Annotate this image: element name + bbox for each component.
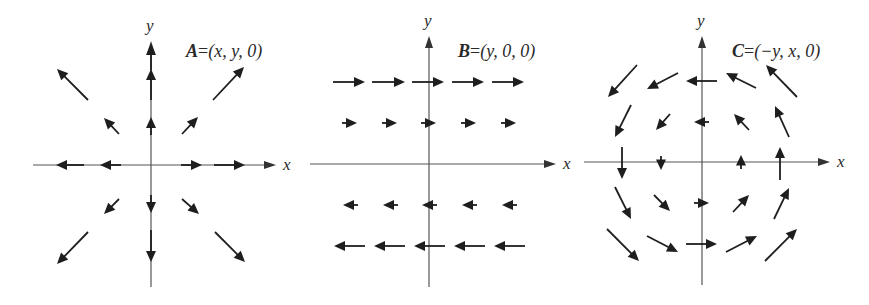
vector-arrow <box>607 229 639 261</box>
vector-arrow <box>412 77 444 87</box>
vector-arrow <box>617 147 627 179</box>
vector-arrow <box>775 106 789 137</box>
arrowhead-icon <box>354 77 365 87</box>
vector-arrow <box>213 67 244 100</box>
arrowhead-icon <box>422 200 433 210</box>
vector-arrow <box>766 65 797 97</box>
vector-arrow <box>104 118 119 134</box>
vector-arrow <box>454 241 485 251</box>
arrowhead-icon <box>146 44 156 55</box>
vector-arrow <box>765 229 797 261</box>
vector-arrow <box>647 73 678 89</box>
arrowhead-icon <box>462 200 473 210</box>
arrowhead-icon <box>146 251 156 262</box>
x-axis-arrow-icon <box>544 160 556 168</box>
arrowhead-icon <box>146 117 156 128</box>
panel-c: xyC=(−y, x, 0) <box>584 11 845 285</box>
vector-arrow <box>146 230 156 262</box>
arrowhead-icon <box>414 241 425 251</box>
arrowhead-icon <box>146 69 156 80</box>
vector-arrow <box>656 114 670 130</box>
panel-a: xyA=(x, y, 0) <box>33 16 291 287</box>
vector-arrow <box>57 69 88 100</box>
vector-arrow <box>615 105 631 137</box>
vector-arrow <box>461 118 476 128</box>
y-axis-label: y <box>422 11 432 30</box>
vector-arrow <box>726 236 757 252</box>
vector-arrow <box>104 199 119 214</box>
arrowhead-icon <box>386 118 397 128</box>
vector-arrow <box>182 117 198 134</box>
arrowhead-icon <box>343 200 354 210</box>
vector-arrow <box>57 232 88 264</box>
vector-arrow <box>775 147 785 180</box>
y-axis-arrow-icon <box>698 36 706 48</box>
vector-arrow <box>146 69 156 100</box>
vector-arrow <box>146 195 156 213</box>
vector-arrow <box>654 195 670 211</box>
arrowhead-icon <box>433 77 444 87</box>
arrowhead-icon <box>56 160 67 170</box>
vector-arrow <box>333 77 365 87</box>
arrowhead-icon <box>374 241 385 251</box>
panel-b: xyB=(y, 0, 0) <box>310 11 571 287</box>
vector-arrow <box>608 65 637 97</box>
vector-arrow <box>494 241 525 251</box>
arrowhead-icon <box>346 118 357 128</box>
arrowhead-icon <box>698 198 709 208</box>
arrowhead-icon <box>100 160 111 170</box>
vector-arrow <box>734 114 749 130</box>
vector-arrow <box>334 241 365 251</box>
arrowhead-icon <box>686 76 697 86</box>
field-equation-label: A=(x, y, 0) <box>185 41 262 62</box>
arrowhead-icon <box>513 77 524 87</box>
vector-arrow <box>146 44 156 70</box>
arrowhead-icon <box>465 118 476 128</box>
vector-arrow <box>215 232 245 262</box>
arrowhead-icon <box>425 118 436 128</box>
vector-arrow <box>462 200 477 210</box>
y-axis-label: y <box>695 11 705 30</box>
vector-field-figure: xyA=(x, y, 0) xyB=(y, 0, 0) xyC=(−y, x, … <box>0 0 869 305</box>
vector-arrow <box>502 200 517 210</box>
vector-arrow <box>372 77 405 87</box>
vector-arrow <box>56 160 84 170</box>
vector-arrow <box>343 200 358 210</box>
vector-arrow <box>615 187 631 219</box>
x-axis-arrow-icon <box>818 158 830 166</box>
vector-arrow <box>182 199 199 214</box>
arrowhead-icon <box>775 147 785 158</box>
arrowhead-icon <box>706 239 717 249</box>
vector-arrow <box>382 118 397 128</box>
y-axis-arrow-icon <box>425 36 433 48</box>
vector-arrow <box>214 160 245 170</box>
vector-arrow <box>774 188 789 219</box>
vector-arrow <box>181 160 202 170</box>
x-axis-arrow-icon <box>264 161 276 169</box>
vector-arrow <box>342 118 357 128</box>
field-equation-label: C=(−y, x, 0) <box>732 41 820 62</box>
vector-arrow <box>146 117 156 135</box>
vector-arrow <box>452 77 484 87</box>
arrowhead-icon <box>617 168 627 179</box>
arrowhead-icon <box>505 118 516 128</box>
arrowhead-icon <box>694 117 705 127</box>
vector-arrow <box>492 77 524 87</box>
arrowhead-icon <box>334 241 345 251</box>
vector-arrow <box>383 200 398 210</box>
arrowhead-icon <box>394 77 405 87</box>
y-axis-label: y <box>144 16 154 35</box>
arrowhead-icon <box>473 77 484 87</box>
arrowhead-icon <box>502 200 513 210</box>
vector-arrow <box>374 241 405 251</box>
arrowhead-icon <box>383 200 394 210</box>
arrowhead-icon <box>656 160 666 171</box>
arrowhead-icon <box>191 160 202 170</box>
vector-arrow <box>733 195 749 212</box>
x-axis-label: x <box>562 154 571 173</box>
vector-arrow <box>100 160 121 170</box>
x-axis-label: x <box>282 155 291 174</box>
vector-arrow <box>647 236 678 252</box>
vector-arrow <box>726 73 756 88</box>
vector-arrow <box>656 156 666 170</box>
